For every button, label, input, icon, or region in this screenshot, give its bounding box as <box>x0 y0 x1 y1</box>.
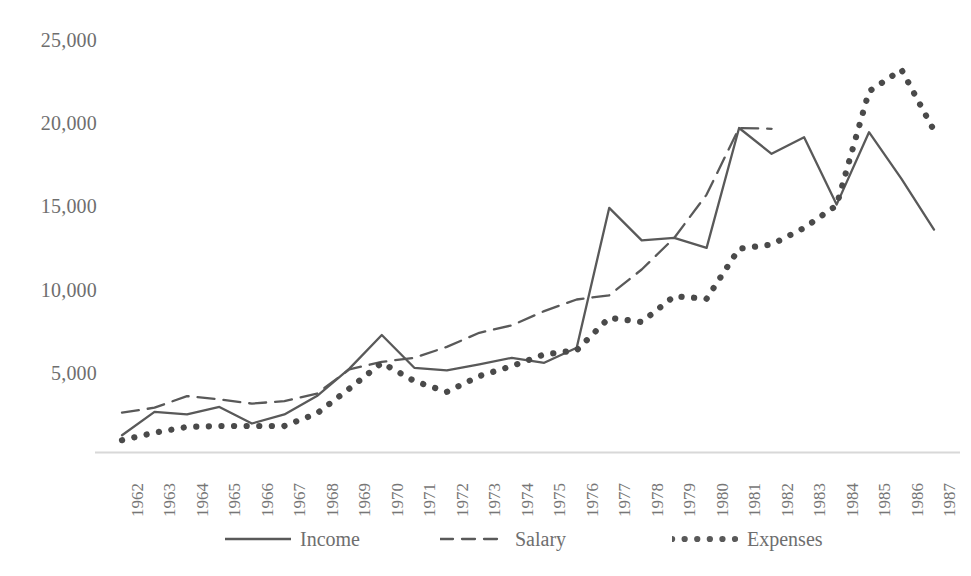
x-axis-tick-label: 1986 <box>909 447 926 517</box>
x-axis-tick-label: 1976 <box>584 447 601 517</box>
x-axis-tick-label: 1983 <box>811 447 828 517</box>
x-axis-tick-label: 1977 <box>616 447 633 517</box>
legend-item-salary[interactable]: Salary <box>440 524 566 554</box>
x-axis-tick-label: 1964 <box>194 447 211 517</box>
x-axis-tick-label: 1979 <box>681 447 698 517</box>
x-axis-tick-label: 1969 <box>356 447 373 517</box>
dotted-line-icon <box>672 532 738 546</box>
x-axis-tick-label: 1981 <box>746 447 763 517</box>
legend-item-income[interactable]: Income <box>225 524 360 554</box>
x-axis-tick-label: 1963 <box>161 447 178 517</box>
x-axis-tick-label: 1971 <box>421 447 438 517</box>
legend-label: Expenses <box>747 529 823 549</box>
series-line-income <box>122 128 934 435</box>
x-axis-tick-label: 1965 <box>226 447 243 517</box>
chart-legend: IncomeSalaryExpenses <box>0 524 971 564</box>
x-axis-tick-label: 1973 <box>486 447 503 517</box>
x-axis-tick-label: 1974 <box>519 447 536 517</box>
x-axis-tick-labels: 1962196319641965196619671968196919701971… <box>0 455 971 525</box>
x-axis-tick-label: 1982 <box>779 447 796 517</box>
dashed-line-icon <box>440 532 506 546</box>
x-axis-tick-label: 1966 <box>259 447 276 517</box>
x-axis-tick-label: 1987 <box>941 447 958 517</box>
legend-label: Salary <box>515 529 566 549</box>
line-chart: 25,00020,00015,00010,0005,000 1962196319… <box>0 0 971 576</box>
x-axis-tick-label: 1975 <box>551 447 568 517</box>
x-axis-tick-label: 1972 <box>454 447 471 517</box>
x-axis-tick-label: 1962 <box>129 447 146 517</box>
x-axis-tick-label: 1968 <box>324 447 341 517</box>
x-axis-tick-label: 1970 <box>389 447 406 517</box>
solid-line-icon <box>225 532 291 546</box>
legend-label: Income <box>300 529 360 549</box>
series-line-expenses <box>122 70 934 441</box>
x-axis-tick-label: 1985 <box>876 447 893 517</box>
x-axis-tick-label: 1967 <box>291 447 308 517</box>
x-axis-tick-label: 1984 <box>844 447 861 517</box>
legend-item-expenses[interactable]: Expenses <box>672 524 823 554</box>
x-axis-tick-label: 1980 <box>714 447 731 517</box>
x-axis-tick-label: 1978 <box>649 447 666 517</box>
